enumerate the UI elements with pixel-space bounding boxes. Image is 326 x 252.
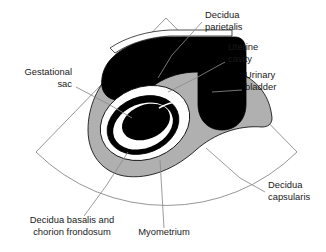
label-decidua-parietalis-line-1: parietalis [205, 21, 243, 32]
label-decidua-basalis-chorion-frondosum-line-0: Decidua basalis and [30, 214, 114, 225]
ultrasound-diagram-figure: DeciduaparietalisUterinecavityUrinarybla… [0, 0, 326, 252]
label-decidua-parietalis-line-0: Decidua [205, 9, 240, 20]
label-urinary-bladder-line-1: bladder [245, 81, 276, 92]
label-urinary-bladder: Urinarybladder [245, 69, 276, 92]
label-uterine-cavity-line-1: cavity [228, 53, 252, 64]
label-decidua-basalis-chorion-frondosum: Decidua basalis andchorion frondosum [30, 214, 114, 237]
label-decidua-parietalis: Deciduaparietalis [205, 9, 243, 32]
label-gestational-sac-line-1: sac [57, 78, 72, 89]
label-myometrium: Myometrium [138, 226, 190, 237]
label-decidua-capsularis-line-0: Decidua [268, 179, 303, 190]
label-decidua-basalis-chorion-frondosum-line-1: chorion frondosum [33, 226, 111, 237]
label-gestational-sac-line-0: Gestational [25, 66, 72, 77]
diagram-canvas: DeciduaparietalisUterinecavityUrinarybla… [0, 0, 326, 252]
label-decidua-capsularis-line-1: capsularis [268, 191, 311, 202]
label-myometrium-line-0: Myometrium [138, 226, 190, 237]
label-uterine-cavity-line-0: Uterine [228, 41, 258, 52]
label-urinary-bladder-line-0: Urinary [245, 69, 276, 80]
